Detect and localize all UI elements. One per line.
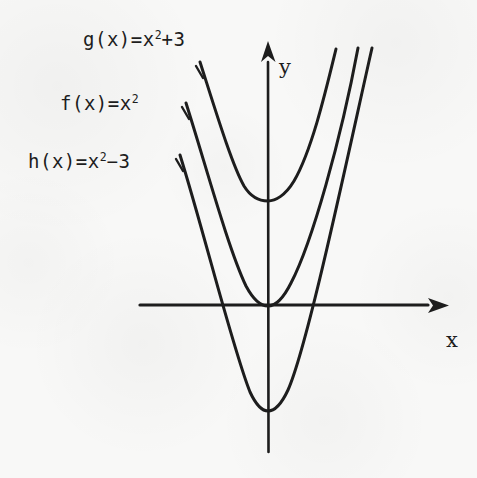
x-axis [140,298,449,313]
curve-label-f: f(x)=x2 [60,94,139,113]
y-axis-label: y [279,57,291,78]
curve-label-g-exponent: 2 [155,28,162,42]
curve-label-h-suffix: −3 [107,150,131,172]
y-axis-line [268,62,269,452]
y-axis [261,41,276,452]
x-axis-arrow-icon [428,298,449,313]
y-axis-arrow-icon [261,41,276,62]
curve-label-g: g(x)=x2+3 [83,30,185,49]
curve-label-g-suffix: +3 [162,28,186,50]
plot-canvas [0,0,477,478]
curve-label-h-exponent: 2 [100,150,107,164]
curve-label-f-prefix: f(x)=x [60,92,132,114]
curve-label-h: h(x)=x2−3 [28,152,130,171]
curve-label-h-prefix: h(x)=x [28,150,100,172]
curve-h [180,48,372,411]
curve-label-f-exponent: 2 [132,92,139,106]
curve-label-g-prefix: g(x)=x [83,28,155,50]
x-axis-label: x [446,330,458,351]
parabola-figure: g(x)=x2+3 f(x)=x2 h(x)=x2−3 y x [0,0,477,478]
